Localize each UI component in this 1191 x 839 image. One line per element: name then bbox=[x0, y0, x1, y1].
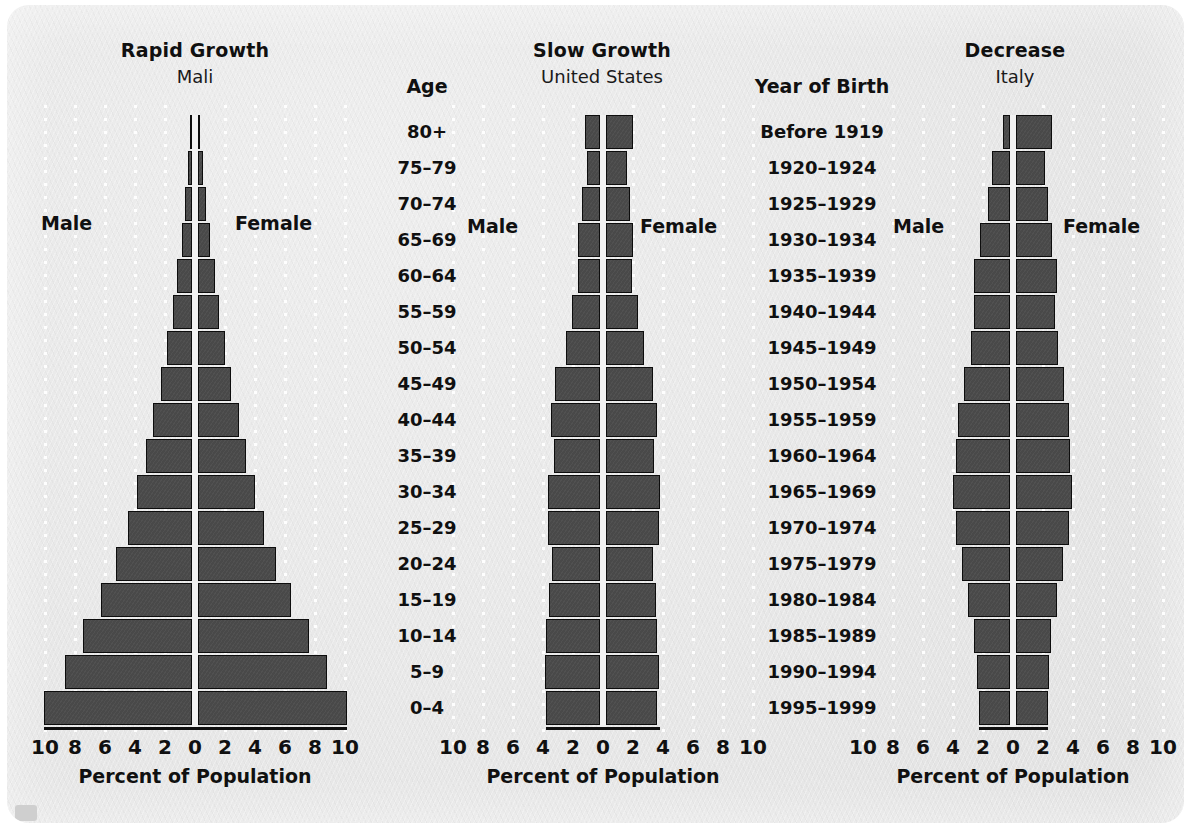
bar-female bbox=[606, 439, 654, 473]
bar-male bbox=[65, 655, 193, 689]
bar-male bbox=[980, 223, 1010, 257]
x-axis-title: Percent of Population bbox=[453, 765, 753, 787]
bar-female bbox=[606, 187, 630, 221]
chart-slow-growth-united-states: Slow Growth United States Male Female 10… bbox=[437, 30, 767, 810]
bar-female bbox=[198, 187, 206, 221]
bar-male bbox=[182, 223, 193, 257]
center-axis-line bbox=[600, 115, 606, 727]
bar-female bbox=[198, 331, 225, 365]
bar-female bbox=[198, 619, 309, 653]
bar-male bbox=[548, 511, 601, 545]
bar-male bbox=[964, 367, 1011, 401]
chart-subtitle: United States bbox=[437, 66, 767, 87]
bar-male bbox=[979, 691, 1011, 725]
x-tick-label: 0 bbox=[188, 735, 202, 759]
bar-male bbox=[974, 295, 1010, 329]
bar-female bbox=[1016, 475, 1072, 509]
bar-male bbox=[44, 691, 193, 725]
bar-female bbox=[606, 475, 660, 509]
bar-female bbox=[198, 439, 246, 473]
bar-male bbox=[974, 619, 1010, 653]
bar-male bbox=[958, 403, 1011, 437]
bar-female bbox=[1016, 655, 1049, 689]
x-tick-label: 8 bbox=[886, 735, 900, 759]
x-tick-label: 0 bbox=[1006, 735, 1020, 759]
bar-female bbox=[1016, 691, 1048, 725]
x-tick-label: 6 bbox=[506, 735, 520, 759]
x-tick-label: 2 bbox=[1036, 735, 1050, 759]
bar-female bbox=[606, 619, 657, 653]
x-axis-tick-labels: 1086420246810 bbox=[453, 735, 753, 761]
bar-female bbox=[198, 691, 347, 725]
bar-female bbox=[606, 331, 644, 365]
bar-male bbox=[974, 259, 1010, 293]
bar-male bbox=[578, 259, 601, 293]
x-tick-label: 6 bbox=[278, 735, 292, 759]
bar-male bbox=[545, 655, 601, 689]
x-tick-label: 4 bbox=[536, 735, 550, 759]
bar-female bbox=[1016, 187, 1048, 221]
bar-male bbox=[552, 547, 600, 581]
bar-male bbox=[566, 331, 601, 365]
x-tick-label: 4 bbox=[946, 735, 960, 759]
bar-male bbox=[582, 187, 600, 221]
bar-male bbox=[153, 403, 192, 437]
x-tick-label: 4 bbox=[1066, 735, 1080, 759]
bar-male bbox=[548, 475, 601, 509]
x-tick-label: 2 bbox=[158, 735, 172, 759]
x-tick-label: 8 bbox=[1126, 735, 1140, 759]
x-tick-label: 10 bbox=[31, 735, 59, 759]
bar-female bbox=[606, 511, 659, 545]
bar-male bbox=[146, 439, 193, 473]
x-tick-label: 6 bbox=[98, 735, 112, 759]
bar-female bbox=[198, 547, 276, 581]
bar-female bbox=[198, 151, 203, 185]
bar-female bbox=[606, 403, 657, 437]
bar-male bbox=[173, 295, 193, 329]
bar-male bbox=[988, 187, 1011, 221]
bar-female bbox=[1016, 115, 1052, 149]
bar-female bbox=[606, 259, 632, 293]
bar-female bbox=[1016, 439, 1070, 473]
x-tick-label: 8 bbox=[716, 735, 730, 759]
x-axis-title: Percent of Population bbox=[45, 765, 345, 787]
x-axis-tick-labels: 1086420246810 bbox=[45, 735, 345, 761]
center-axis-line bbox=[1010, 115, 1016, 727]
x-tick-label: 8 bbox=[68, 735, 82, 759]
figure-panel: Rapid Growth Mali Male Female 1086420246… bbox=[7, 5, 1184, 823]
bar-male bbox=[116, 547, 193, 581]
bar-female bbox=[606, 223, 633, 257]
bar-male bbox=[546, 619, 600, 653]
chart-title: Slow Growth bbox=[437, 39, 767, 61]
bar-male bbox=[554, 439, 601, 473]
bar-male bbox=[549, 583, 600, 617]
bar-male bbox=[956, 439, 1010, 473]
bar-male bbox=[977, 655, 1010, 689]
bar-female bbox=[1016, 619, 1051, 653]
x-tick-label: 0 bbox=[596, 735, 610, 759]
x-tick-label: 6 bbox=[686, 735, 700, 759]
bar-male bbox=[968, 583, 1010, 617]
bar-male bbox=[585, 115, 600, 149]
bar-female bbox=[606, 367, 653, 401]
bar-female bbox=[606, 547, 653, 581]
plot-area bbox=[45, 115, 345, 760]
bar-female bbox=[1016, 331, 1058, 365]
chart-subtitle: Italy bbox=[850, 66, 1180, 87]
x-tick-label: 2 bbox=[976, 735, 990, 759]
bar-female bbox=[1016, 295, 1055, 329]
bar-female bbox=[198, 655, 327, 689]
x-tick-label: 4 bbox=[656, 735, 670, 759]
x-axis-spine bbox=[979, 727, 1048, 730]
bar-male bbox=[167, 331, 193, 365]
bar-female bbox=[1016, 223, 1052, 257]
bar-female bbox=[198, 511, 264, 545]
x-tick-label: 10 bbox=[331, 735, 359, 759]
bar-male bbox=[101, 583, 193, 617]
x-tick-label: 6 bbox=[916, 735, 930, 759]
x-tick-label: 8 bbox=[308, 735, 322, 759]
chart-rapid-growth-mali: Rapid Growth Mali Male Female 1086420246… bbox=[25, 30, 365, 810]
bar-male bbox=[956, 511, 1010, 545]
bar-female bbox=[606, 691, 657, 725]
bar-male bbox=[185, 187, 192, 221]
